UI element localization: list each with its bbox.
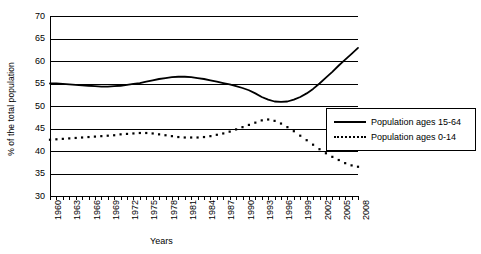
legend-swatch-dotted-icon (333, 132, 367, 142)
series-dot-1 (338, 159, 340, 161)
series-dot-1 (126, 133, 128, 135)
series-dot-1 (241, 126, 243, 128)
legend-label-1: Population ages 0-14 (371, 132, 456, 142)
x-tick-label-1972: 1972 (131, 200, 140, 220)
series-dot-1 (209, 135, 211, 137)
series-dot-1 (139, 132, 141, 134)
series-layer (50, 16, 358, 196)
x-tick-label-1984: 1984 (208, 200, 217, 220)
y-tick-label-45: 45 (19, 124, 45, 133)
y-tick-label-40: 40 (19, 147, 45, 156)
series-dot-1 (344, 162, 346, 164)
x-tick-label-1975: 1975 (150, 200, 159, 220)
series-dot-1 (177, 136, 179, 138)
series-dot-1 (261, 119, 263, 121)
x-tick-label-1966: 1966 (93, 200, 102, 220)
legend-item-0[interactable]: Population ages 15-64 (333, 114, 469, 129)
x-tick-label-1963: 1963 (73, 200, 82, 220)
series-dot-1 (87, 136, 89, 138)
x-tick-label-1999: 1999 (304, 200, 313, 220)
series-dot-1 (81, 136, 83, 138)
y-tick-label-35: 35 (19, 169, 45, 178)
chart-figure: % of the total population 70656055504540… (0, 0, 481, 254)
series-dot-1 (357, 166, 359, 168)
series-dot-1 (94, 136, 96, 138)
series-dot-1 (267, 118, 269, 120)
series-dot-1 (190, 136, 192, 138)
series-dot-1 (107, 135, 109, 137)
plot-area (50, 16, 358, 196)
series-dot-1 (248, 124, 250, 126)
y-tick-label-55: 55 (19, 79, 45, 88)
series-dot-1 (100, 135, 102, 137)
series-dot-1 (306, 139, 308, 141)
series-line-0 (50, 48, 358, 102)
x-tick-label-2005: 2005 (343, 200, 352, 220)
series-dot-1 (55, 138, 57, 140)
series-dot-1 (196, 136, 198, 138)
series-dot-1 (299, 135, 301, 137)
series-dot-1 (184, 136, 186, 138)
y-tick-label-30: 30 (19, 192, 45, 201)
series-dot-1 (75, 137, 77, 139)
series-dot-1 (203, 136, 205, 138)
x-tick-2008 (358, 196, 359, 200)
series-dot-1 (222, 132, 224, 134)
series-dot-1 (158, 133, 160, 135)
x-tick-label-1996: 1996 (285, 200, 294, 220)
x-tick-label-1987: 1987 (227, 200, 236, 220)
x-tick-label-1990: 1990 (247, 200, 256, 220)
y-tick-label-70: 70 (19, 12, 45, 21)
series-dot-1 (229, 131, 231, 133)
series-dot-1 (152, 132, 154, 134)
series-dot-1 (286, 126, 288, 128)
series-dot-1 (273, 120, 275, 122)
x-axis-tick-labels: 1960196319661969197219751978198119841987… (50, 200, 358, 242)
series-dot-1 (293, 130, 295, 132)
legend-swatch-solid-icon (333, 117, 367, 127)
series-dot-1 (62, 138, 64, 140)
y-tick-label-65: 65 (19, 34, 45, 43)
y-axis-title: % of the total population (6, 34, 16, 184)
x-tick-label-1981: 1981 (189, 200, 198, 220)
series-dot-1 (325, 152, 327, 154)
series-dot-1 (119, 133, 121, 135)
series-dot-1 (145, 132, 147, 134)
legend: Population ages 15-64 Population ages 0-… (326, 108, 476, 151)
series-dot-1 (318, 148, 320, 150)
legend-label-0: Population ages 15-64 (371, 117, 461, 127)
y-tick-label-50: 50 (19, 102, 45, 111)
series-dot-1 (216, 134, 218, 136)
series-dot-1 (132, 132, 134, 134)
x-tick-label-1993: 1993 (266, 200, 275, 220)
x-axis-title: Years (150, 236, 173, 246)
series-dot-1 (113, 134, 115, 136)
series-dot-1 (350, 164, 352, 166)
series-dot-1 (171, 135, 173, 137)
series-dot-1 (49, 139, 51, 141)
legend-item-1[interactable]: Population ages 0-14 (333, 129, 469, 144)
series-dot-1 (164, 134, 166, 136)
x-tick-label-1960: 1960 (54, 200, 63, 220)
clipped-top-text (6, 0, 226, 6)
y-tick-label-60: 60 (19, 57, 45, 66)
series-dot-1 (280, 122, 282, 124)
series-dot-1 (68, 137, 70, 139)
series-dot-1 (312, 144, 314, 146)
series-dot-1 (331, 156, 333, 158)
x-tick-label-2002: 2002 (324, 200, 333, 220)
series-dot-1 (254, 122, 256, 124)
x-tick-label-1978: 1978 (170, 200, 179, 220)
series-dot-1 (235, 128, 237, 130)
x-tick-label-1969: 1969 (112, 200, 121, 220)
x-tick-label-2008: 2008 (362, 200, 371, 220)
